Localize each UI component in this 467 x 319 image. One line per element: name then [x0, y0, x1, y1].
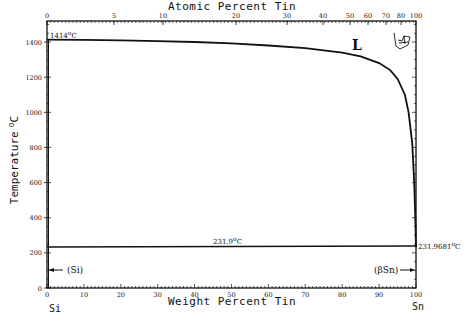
- bottom-tick-label: 20: [117, 291, 125, 299]
- top-tick-label: 40: [319, 12, 327, 20]
- plot-frame: [47, 21, 416, 288]
- liquid-region-label: L: [352, 37, 362, 53]
- inset-detail-icon: [394, 33, 410, 49]
- bottom-tick-label: 10: [80, 291, 88, 299]
- bottom-tick-label: 100: [410, 291, 422, 299]
- y-tick-label: 1000: [25, 109, 42, 117]
- bottom-tick-label: 0: [45, 291, 49, 299]
- element-label-sn: Sn: [412, 301, 424, 312]
- eutectic-label: 231.9oC: [213, 235, 242, 246]
- eutectic-isotherm: [47, 246, 416, 247]
- si-melting-point-label: 1414oC: [50, 29, 77, 40]
- top-tick-label: 60: [364, 12, 372, 20]
- y-tick-label: 1200: [25, 74, 42, 82]
- top-tick-label: 50: [346, 12, 354, 20]
- y-tick-label: 600: [30, 179, 42, 187]
- sn-arrow-head: [410, 268, 415, 272]
- top-tick-label: 10: [159, 12, 167, 20]
- y-tick-label: 200: [30, 249, 42, 257]
- bottom-tick-label: 80: [338, 291, 346, 299]
- top-tick-label: 80: [397, 12, 405, 20]
- top-tick-label: 100: [410, 12, 422, 20]
- bottom-tick-label: 90: [375, 291, 383, 299]
- si-arrow-head: [49, 268, 54, 272]
- y-tick-label: 0: [38, 285, 42, 293]
- top-axis-ticks: 051020304050607080100: [45, 12, 422, 25]
- y-axis-title: TemperatureoC: [7, 116, 21, 204]
- liquidus-curve: [47, 40, 416, 248]
- phase-diagram-chart: Atomic Percent Tin 051020304050607080100…: [0, 0, 467, 319]
- element-label-si: Si: [49, 303, 61, 314]
- top-tick-label: 5: [112, 12, 116, 20]
- y-tick-label: 800: [30, 144, 42, 152]
- top-tick-label: 30: [283, 12, 291, 20]
- bottom-axis-title: Weight Percent Tin: [168, 295, 296, 308]
- top-tick-label: 70: [382, 12, 390, 20]
- y-tick-label: 400: [30, 214, 42, 222]
- sn-melting-point-label: 231.9681oC: [418, 240, 460, 251]
- y-tick-label: 1400: [25, 39, 42, 47]
- bottom-tick-label: 70: [301, 291, 309, 299]
- sn-phase-label: (βSn): [374, 265, 398, 275]
- top-tick-label: 0: [45, 12, 49, 20]
- bottom-tick-label: 30: [154, 291, 162, 299]
- si-phase-label: (Si): [67, 265, 83, 275]
- top-tick-label: 20: [232, 12, 240, 20]
